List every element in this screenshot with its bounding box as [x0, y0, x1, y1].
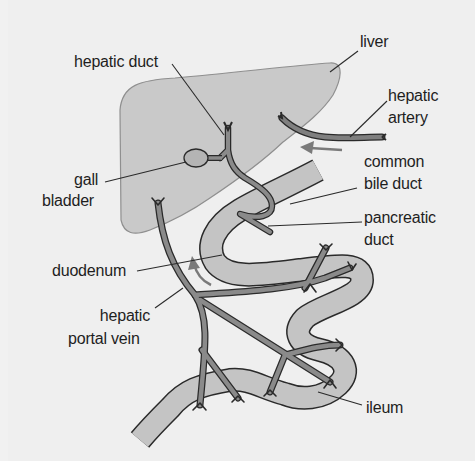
label-gall-bladder-line2: bladder	[42, 191, 94, 211]
diagram: liver hepatic duct hepatic artery common…	[0, 0, 475, 461]
label-common-bile-duct-line1: common	[364, 152, 424, 172]
label-hepatic-artery-line1: hepatic	[388, 86, 438, 106]
label-duodenum: duodenum	[52, 261, 126, 281]
label-hepatic-portal-vein-line1: hepatic	[60, 306, 150, 326]
label-hepatic-portal-vein-line2: portal vein	[68, 329, 140, 349]
diagram-artwork	[0, 0, 475, 461]
label-gall-bladder-line1: gall	[74, 170, 98, 190]
gall-bladder-shape	[184, 149, 208, 167]
arrow-up-icon	[188, 256, 200, 270]
label-pancreatic-duct-line1: pancreatic	[364, 208, 436, 228]
label-common-bile-duct-line2: bile duct	[364, 174, 422, 194]
label-ileum: ileum	[366, 398, 403, 418]
label-liver: liver	[360, 32, 388, 52]
arrow-left-icon	[300, 141, 314, 154]
label-pancreatic-duct-line2: duct	[364, 230, 393, 250]
label-hepatic-duct: hepatic duct	[74, 52, 158, 72]
label-hepatic-artery-line2: artery	[388, 108, 428, 128]
